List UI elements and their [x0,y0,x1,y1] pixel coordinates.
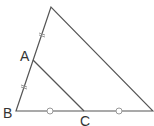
label-a: A [20,49,29,63]
circle-mark-right [116,108,122,114]
outer-triangle [16,7,153,111]
segment-ac [33,60,84,111]
circle-mark-left [47,108,53,114]
label-c: C [80,114,90,126]
label-b: B [3,106,12,120]
